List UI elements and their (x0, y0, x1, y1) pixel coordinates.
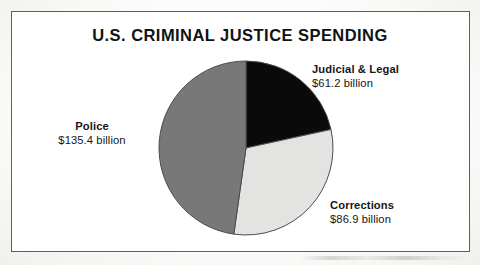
chart-figure: U.S. CRIMINAL JUSTICE SPENDING Judicial … (0, 0, 480, 265)
pie-label-judicial-and-legal-value: $61.2 billion (312, 76, 462, 90)
pie-label-judicial-and-legal: Judicial & Legal $61.2 billion (312, 62, 462, 91)
pie-label-corrections-name: Corrections (330, 198, 470, 212)
pie-slice-police (159, 61, 246, 234)
pie-label-police: Police $135.4 billion (28, 119, 156, 148)
pie-label-judicial-and-legal-name: Judicial & Legal (312, 62, 462, 76)
pie-label-corrections: Corrections $86.9 billion (330, 198, 470, 227)
pie-label-corrections-value: $86.9 billion (330, 212, 470, 226)
pie-label-police-name: Police (28, 119, 156, 133)
pie-label-police-value: $135.4 billion (28, 133, 156, 147)
pie-slice-group (159, 61, 333, 235)
